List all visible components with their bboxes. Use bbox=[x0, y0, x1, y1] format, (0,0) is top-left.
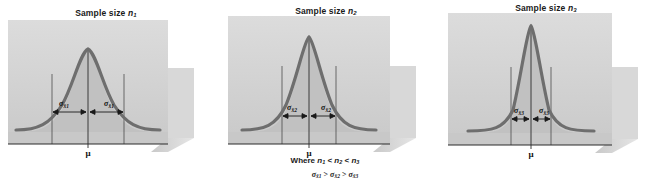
footnote-sigma-order: σx̄1 > σx̄2 > σx̄3 bbox=[235, 170, 435, 179]
panel-2-plot: σx̄2 σx̄2 μ bbox=[228, 16, 424, 166]
panel-3-plot: σx̄3 σx̄3 μ bbox=[448, 13, 644, 169]
panel-1-side-wall bbox=[168, 68, 194, 138]
panel-3-side-wall bbox=[612, 67, 638, 139]
panel-1-mean-label: μ bbox=[85, 148, 90, 158]
panel-3-title: Sample size n3 bbox=[448, 3, 644, 13]
panel-sample-size-n1: Sample size n1 bbox=[8, 0, 204, 160]
panel-3-mean-label: μ bbox=[528, 149, 533, 159]
panel-1-plot: σx̄1 σx̄1 μ bbox=[8, 20, 204, 170]
panel-3-baseline-strip bbox=[448, 133, 612, 145]
footnote-op1: < bbox=[325, 156, 334, 165]
footnote-lead: Where bbox=[291, 156, 318, 165]
footnote-sigma3-sub: x̄3 bbox=[353, 173, 359, 179]
panel-3-title-prefix: Sample size bbox=[515, 3, 568, 13]
panel-2-title-prefix: Sample size bbox=[295, 6, 348, 16]
sampling-distribution-figure: Sample size n1 bbox=[0, 0, 649, 185]
panel-sample-size-n2: Sample size n2 bbox=[228, 0, 424, 160]
panel-1-title: Sample size n1 bbox=[8, 8, 204, 18]
footnote-n3-sub: 3 bbox=[356, 159, 359, 165]
panel-1-title-prefix: Sample size bbox=[75, 8, 128, 18]
panel-2-side-wall bbox=[390, 66, 416, 138]
panel-sample-size-n3: Sample size n3 bbox=[448, 0, 644, 160]
footnote-sample-size-order: Where n1 < n2 < n3 bbox=[225, 156, 425, 165]
footnote-sigma-op1: > bbox=[322, 170, 331, 179]
panel-2-title: Sample size n2 bbox=[228, 6, 424, 16]
panel-1-title-subscript: 1 bbox=[133, 12, 137, 18]
